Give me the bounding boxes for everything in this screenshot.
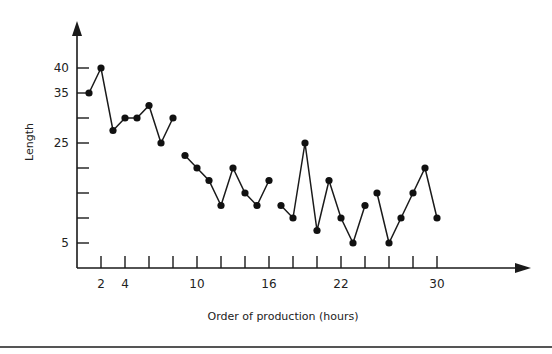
data-point [421, 164, 428, 171]
data-point [133, 114, 140, 121]
series-line [377, 168, 437, 243]
series-segment-2 [181, 152, 272, 209]
data-point [277, 202, 284, 209]
run-chart: 4035255 2410162230 Length Order of produ… [0, 0, 552, 354]
x-tick-labels: 2410162230 [97, 277, 444, 291]
series-line [185, 156, 269, 206]
data-point [85, 89, 92, 96]
data-point [241, 189, 248, 196]
x-tick-label: 10 [189, 277, 204, 291]
series-line [281, 143, 365, 243]
x-tick-label: 16 [261, 277, 276, 291]
series-segment-3 [277, 139, 368, 246]
data-point [253, 202, 260, 209]
y-tick-label: 25 [54, 136, 69, 150]
data-point [301, 139, 308, 146]
x-ticks [101, 256, 437, 268]
data-point [373, 189, 380, 196]
x-tick-label: 2 [97, 277, 105, 291]
data-point [217, 202, 224, 209]
data-point [109, 127, 116, 134]
data-point [97, 64, 104, 71]
data-point [361, 202, 368, 209]
series-segment-1 [85, 64, 176, 146]
y-tick-labels: 4035255 [54, 61, 69, 250]
data-point [289, 214, 296, 221]
data-point [409, 189, 416, 196]
data-point [193, 164, 200, 171]
data-point [145, 102, 152, 109]
y-axis: 4035255 [54, 21, 89, 268]
data-series [85, 64, 440, 246]
data-point [265, 177, 272, 184]
y-axis-label: Length [23, 123, 36, 161]
y-tick-label: 5 [61, 236, 69, 250]
data-point [337, 214, 344, 221]
data-point [181, 152, 188, 159]
data-point [229, 164, 236, 171]
x-tick-label: 22 [333, 277, 348, 291]
data-point [169, 114, 176, 121]
data-point [433, 214, 440, 221]
data-point [157, 139, 164, 146]
x-axis: 2410162230 [77, 256, 531, 291]
y-axis-arrow-icon [72, 21, 82, 36]
x-tick-label: 4 [121, 277, 129, 291]
data-point [349, 239, 356, 246]
y-tick-label: 35 [54, 86, 69, 100]
data-point [313, 227, 320, 234]
series-line [89, 68, 173, 143]
x-tick-label: 30 [429, 277, 444, 291]
data-point [397, 214, 404, 221]
data-point [205, 177, 212, 184]
x-axis-arrow-icon [515, 263, 531, 273]
series-segment-4 [373, 164, 440, 246]
data-point [121, 114, 128, 121]
y-tick-label: 40 [54, 61, 69, 75]
data-point [325, 177, 332, 184]
x-axis-label: Order of production (hours) [208, 310, 359, 323]
data-point [385, 239, 392, 246]
